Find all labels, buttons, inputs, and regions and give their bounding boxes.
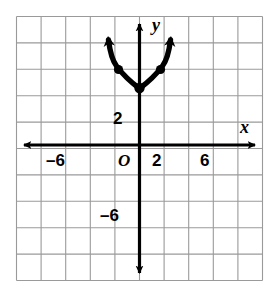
curve-point-right (156, 65, 165, 74)
x-axis-tick-label-neg6: –6 (46, 152, 65, 169)
graph-canvas (0, 0, 270, 292)
y-axis-tick-label-neg6: –6 (100, 207, 119, 224)
coordinate-plane-figure: –6 O 2 6 2 –6 x y (0, 0, 270, 292)
curve-vertex-point (134, 83, 144, 93)
curve-right-arm (140, 40, 171, 89)
curve-left-arm (109, 40, 140, 89)
curve-point-left (114, 65, 123, 74)
x-axis-tick-label-6: 6 (200, 152, 209, 169)
origin-label: O (118, 152, 130, 169)
x-axis-tick-label-2: 2 (152, 152, 161, 169)
x-axis-name-label: x (240, 118, 249, 136)
y-axis-name-label: y (152, 16, 160, 34)
y-axis-tick-label-2: 2 (113, 110, 122, 127)
